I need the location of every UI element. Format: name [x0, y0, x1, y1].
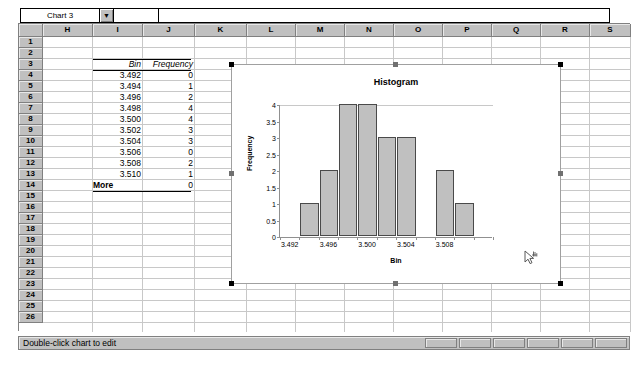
row-header-16[interactable]: 16 — [19, 202, 43, 213]
name-box[interactable]: Chart 3 — [21, 9, 100, 22]
row-header-10[interactable]: 10 — [19, 136, 43, 147]
x-axis-tick — [357, 237, 358, 240]
table-cell-bin: 3.500 — [93, 114, 141, 125]
table-cell-frequency: 0 — [143, 180, 193, 191]
table-bottom-rule — [93, 191, 191, 192]
row-header-18[interactable]: 18 — [19, 224, 43, 235]
gridline-horizontal — [43, 289, 631, 290]
x-axis-tick-label: 3.508 — [436, 241, 454, 248]
column-header-l[interactable]: L — [247, 24, 296, 37]
x-axis-tick — [299, 237, 300, 240]
row-header-20[interactable]: 20 — [19, 246, 43, 257]
row-header-6[interactable]: 6 — [19, 92, 43, 103]
row-header-8[interactable]: 8 — [19, 114, 43, 125]
column-header-s[interactable]: S — [590, 24, 631, 37]
column-header-h[interactable]: H — [43, 24, 93, 37]
x-axis-tick — [435, 237, 436, 240]
chart-handle-w[interactable] — [229, 171, 234, 176]
column-header-k[interactable]: K — [195, 24, 247, 37]
chart-handle-se[interactable] — [558, 281, 563, 286]
chart-bar[interactable] — [358, 104, 376, 236]
table-cell-frequency: 2 — [143, 158, 193, 169]
chart-handle-e[interactable] — [558, 171, 563, 176]
table-cell-frequency: 3 — [143, 136, 193, 147]
row-header-9[interactable]: 9 — [19, 125, 43, 136]
chart-bar[interactable] — [397, 137, 415, 236]
row-header-24[interactable]: 24 — [19, 290, 43, 301]
chart-handle-nw[interactable] — [229, 62, 234, 67]
y-axis-tick — [277, 221, 280, 222]
row-header-3[interactable]: 3 — [19, 59, 43, 70]
column-header-q[interactable]: Q — [492, 24, 541, 37]
column-header-j[interactable]: J — [143, 24, 195, 37]
table-header-frequency: Frequency — [143, 59, 193, 70]
row-header-1[interactable]: 1 — [19, 37, 43, 48]
row-header-14[interactable]: 14 — [19, 180, 43, 191]
row-header-26[interactable]: 26 — [19, 312, 43, 323]
table-cell-frequency: 0 — [143, 70, 193, 81]
table-cell-bin: 3.502 — [93, 125, 141, 136]
column-header-p[interactable]: P — [443, 24, 492, 37]
table-cell-bin: 3.504 — [93, 136, 141, 147]
row-header-2[interactable]: 2 — [19, 48, 43, 59]
column-header-m[interactable]: M — [296, 24, 345, 37]
row-header-15[interactable]: 15 — [19, 191, 43, 202]
gridline-vertical — [194, 37, 195, 332]
gridline-horizontal — [43, 47, 631, 48]
table-cell-frequency: 0 — [143, 147, 193, 158]
status-indicator — [595, 338, 627, 348]
table-cell-frequency: 1 — [143, 81, 193, 92]
formula-input[interactable] — [159, 9, 609, 22]
chart-bar[interactable] — [378, 137, 396, 236]
row-header-25[interactable]: 25 — [19, 301, 43, 312]
row-header-7[interactable]: 7 — [19, 103, 43, 114]
row-header-12[interactable]: 12 — [19, 158, 43, 169]
row-header-21[interactable]: 21 — [19, 257, 43, 268]
column-header-n[interactable]: N — [345, 24, 394, 37]
y-axis-tick — [277, 171, 280, 172]
gridline-horizontal — [43, 322, 631, 323]
table-cell-bin: 3.510 — [93, 169, 141, 180]
table-cell-frequency: 4 — [143, 103, 193, 114]
column-header-i[interactable]: I — [93, 24, 143, 37]
select-all-corner[interactable] — [19, 24, 43, 37]
row-header-11[interactable]: 11 — [19, 147, 43, 158]
name-box-value: Chart 3 — [47, 12, 73, 20]
plot-area[interactable]: 00.511.522.533.543.4923.4963.5003.5043.5… — [279, 105, 492, 238]
chart-handle-sw[interactable] — [229, 281, 234, 286]
chart-bar[interactable] — [455, 203, 473, 236]
chevron-down-icon[interactable]: ▼ — [100, 9, 114, 22]
chart-handle-n[interactable] — [393, 62, 398, 67]
chart-handle-ne[interactable] — [558, 62, 563, 67]
chart-object[interactable]: Histogram Frequency Bin 00.511.522.533.5… — [231, 64, 561, 284]
row-header-22[interactable]: 22 — [19, 268, 43, 279]
status-indicator — [425, 338, 457, 348]
row-header-17[interactable]: 17 — [19, 213, 43, 224]
chart-handle-s[interactable] — [393, 281, 398, 286]
chart-bar[interactable] — [339, 104, 357, 236]
chart-bar[interactable] — [320, 170, 338, 236]
table-cell-bin: 3.494 — [93, 81, 141, 92]
table-cell-frequency: 4 — [143, 114, 193, 125]
y-axis-tick — [277, 188, 280, 189]
row-header-5[interactable]: 5 — [19, 81, 43, 92]
y-axis-tick — [277, 138, 280, 139]
formula-toolbar-gap — [114, 9, 159, 22]
table-header-bin: Bin — [93, 59, 141, 70]
chart-bar[interactable] — [436, 170, 454, 236]
x-axis-tick — [280, 237, 281, 240]
x-axis-tick — [474, 237, 475, 240]
gridline-horizontal — [43, 300, 631, 301]
status-indicator — [493, 338, 525, 348]
row-header-19[interactable]: 19 — [19, 235, 43, 246]
chart-bar[interactable] — [300, 203, 318, 236]
row-header-13[interactable]: 13 — [19, 169, 43, 180]
x-axis-tick — [377, 237, 378, 240]
row-header-4[interactable]: 4 — [19, 70, 43, 81]
row-header-23[interactable]: 23 — [19, 279, 43, 290]
column-header-r[interactable]: R — [541, 24, 590, 37]
x-axis-tick — [454, 237, 455, 240]
gridline-vertical — [589, 37, 590, 332]
column-header-o[interactable]: O — [394, 24, 443, 37]
y-axis-tick-label: 2.5 — [266, 151, 276, 158]
